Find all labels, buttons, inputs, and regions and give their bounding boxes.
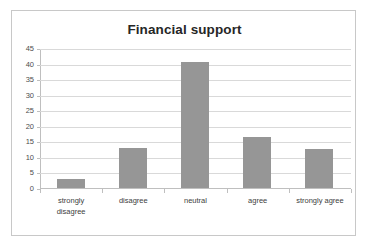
x-label-agree: agree xyxy=(227,195,289,206)
x-label-disagree: disagree xyxy=(102,195,164,206)
x-label-neutral: neutral xyxy=(164,195,226,206)
y-tick-label-10: 10 xyxy=(14,154,34,162)
y-tick-label-5: 5 xyxy=(14,169,34,177)
y-tick-label-0: 0 xyxy=(14,185,34,193)
bar-strongly-disagree xyxy=(57,179,85,188)
y-axis-tick-labels: 0 5 10 15 20 25 30 35 40 45 xyxy=(12,49,34,189)
x-tick-4 xyxy=(289,189,290,193)
x-label-strongly-disagree: strongly disagree xyxy=(40,195,102,217)
x-tick-3 xyxy=(227,189,228,193)
x-tick-2 xyxy=(164,189,165,193)
y-tick-label-25: 25 xyxy=(14,107,34,115)
y-tick-label-20: 20 xyxy=(14,123,34,131)
bar-strongly-agree xyxy=(305,149,333,188)
y-tick-label-30: 30 xyxy=(14,92,34,100)
gridline-45 xyxy=(40,49,351,50)
x-label-strongly-agree: strongly agree xyxy=(289,195,351,206)
y-tick-label-15: 15 xyxy=(14,138,34,146)
bar-agree xyxy=(243,137,271,188)
chart-frame: Financial support 0 5 10 15 20 25 30 35 … xyxy=(11,10,356,236)
y-tick-label-45: 45 xyxy=(14,45,34,53)
bar-disagree xyxy=(119,148,147,188)
y-tick-label-40: 40 xyxy=(14,61,34,69)
x-axis-category-labels: strongly disagree disagree neutral agree… xyxy=(40,195,351,229)
x-tick-1 xyxy=(102,189,103,193)
chart-figure: Financial support 0 5 10 15 20 25 30 35 … xyxy=(0,0,369,248)
x-tick-0 xyxy=(40,189,41,193)
plot-area xyxy=(40,49,351,188)
x-tick-5 xyxy=(351,189,352,193)
chart-title: Financial support xyxy=(12,22,357,37)
bar-neutral xyxy=(181,62,209,188)
gridline-0-baseline xyxy=(40,188,351,189)
y-tick-label-35: 35 xyxy=(14,76,34,84)
